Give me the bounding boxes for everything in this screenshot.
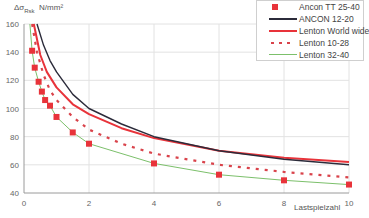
y-axis-symbol: Δσ: [14, 3, 24, 12]
data-point-marker: [36, 79, 42, 85]
legend-item-ancon-tt-25-40: Ancon TT 25-40: [257, 1, 363, 13]
data-point-marker: [70, 129, 76, 135]
data-point-marker: [54, 114, 60, 120]
legend-label: Ancon TT 25-40: [299, 2, 360, 12]
x-axis-label: Lastspielzahl: [294, 203, 340, 212]
y-tick-label: 160: [6, 20, 20, 29]
x-tick-label: 0: [22, 199, 27, 208]
data-point-marker: [47, 103, 53, 109]
line-swatch-icon: [269, 18, 297, 20]
legend-item-lenton-world-wide: Lenton World wide: [257, 25, 363, 37]
x-tick-label: 2: [87, 199, 92, 208]
y-tick-label: 80: [10, 133, 19, 142]
y-axis-unit: N/mm²: [39, 3, 63, 12]
y-axis-subscript: Rsk: [24, 8, 34, 14]
x-tick-label: 4: [152, 199, 157, 208]
legend-label: Lenton 32-40: [299, 50, 349, 60]
data-point-marker: [32, 65, 38, 71]
y-tick-label: 140: [6, 48, 20, 57]
data-point-marker: [86, 141, 92, 147]
legend: Ancon TT 25-40 ANCON 12-20 Lenton World …: [256, 0, 364, 61]
x-tick-label: 10: [345, 199, 354, 208]
data-point-marker: [42, 97, 48, 103]
data-point-marker: [281, 177, 287, 183]
legend-item-lenton-32-40: Lenton 32-40: [257, 49, 363, 61]
data-point-marker: [216, 172, 222, 178]
y-tick-label: 40: [10, 189, 19, 198]
y-tick-label: 60: [10, 161, 19, 170]
line-swatch-icon: [269, 30, 297, 32]
x-tick-label: 6: [217, 199, 222, 208]
legend-item-lenton-10-28: Lenton 10-28: [257, 37, 363, 49]
data-point-marker: [29, 48, 35, 54]
legend-label: Lenton World wide: [299, 26, 369, 36]
legend-label: Lenton 10-28: [299, 38, 349, 48]
y-axis-label: ΔσRsk N/mm²: [14, 3, 63, 14]
line-swatch-icon: [269, 54, 297, 55]
x-tick-label: 8: [282, 199, 287, 208]
square-marker-icon: [272, 4, 278, 10]
y-tick-label: 100: [6, 105, 20, 114]
data-point-marker: [151, 160, 157, 166]
y-tick-label: 120: [6, 76, 20, 85]
data-point-marker: [39, 89, 45, 95]
data-point-marker: [346, 182, 352, 188]
legend-item-ancon-12-20: ANCON 12-20: [257, 13, 363, 25]
legend-label: ANCON 12-20: [299, 14, 354, 24]
dashed-line-swatch-icon: [271, 42, 295, 44]
